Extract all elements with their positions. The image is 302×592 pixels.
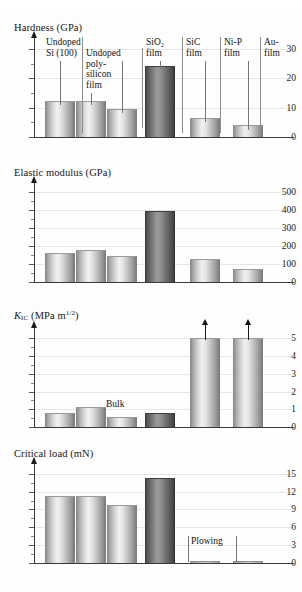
y-axis [34,327,35,427]
bar-sio2-film [107,417,137,427]
y-tick-minor [31,501,34,502]
y-tick-label: 300 [272,223,296,233]
y-tick-minor [31,255,34,256]
callout-sio2: SiO₂ film [146,37,164,58]
kic-exponent: 1/2 [66,309,75,317]
kic-unit-open: (MPa m [28,310,65,321]
bar-ni-p-film [190,561,220,563]
leader-line [205,61,206,122]
y-tick-minor [31,536,34,537]
label-divider [142,48,143,128]
y-tick [29,392,34,393]
y-tick-label: 3 [272,540,296,550]
chart-critical-load-plot: 03691215Plowing [8,461,296,573]
leader-line [60,61,61,105]
bar-undoped-si-100 [45,253,75,282]
y-tick [29,228,34,229]
y-tick [29,474,34,475]
y-tick-label: 0 [272,132,296,142]
y-tick-label: 12 [272,487,296,497]
bar-au-film [233,269,263,282]
bar-sio2-film [107,109,137,137]
bar-undoped-poly-silicon-film [76,250,106,282]
y-tick-minor [31,201,34,202]
y-tick [29,545,34,546]
y-tick [29,108,34,109]
y-tick-minor [31,237,34,238]
chart-fracture-toughness-title: KIC (MPa m1/2) [14,307,296,324]
y-tick [29,210,34,211]
y-tick-label: 500 [272,187,296,197]
bar-sio2-film [107,505,137,563]
y-tick [29,374,34,375]
y-axis [34,182,35,282]
chart-elastic-modulus-title: Elastic modulus (GPa) [14,167,296,179]
y-tick-label: 2 [272,387,296,397]
callout-sic: SiC film [186,37,202,58]
y-tick-minor [31,122,34,123]
y-tick [29,137,34,138]
label-divider [82,37,83,133]
y-tick-minor [31,518,34,519]
y-tick-label: 5 [272,333,296,343]
bar-undoped-poly-silicon-film [76,101,106,137]
annotation-plowing: Plowing [191,536,223,546]
bar-au-film [233,338,263,427]
y-tick-label: 6 [272,522,296,532]
y-tick-label: 100 [272,259,296,269]
bar-sio2-film [107,256,137,282]
y-tick [29,282,34,283]
bar-sic-film [145,478,175,563]
y-tick-label: 400 [272,205,296,215]
label-divider [220,37,221,133]
y-tick [29,427,34,428]
y-tick-minor [31,64,34,65]
gridline [35,474,294,475]
chart-hardness-plot: 0102030Undoped Si (100)Undoped poly- sil… [8,35,296,147]
callout-poly-silicon: Undoped poly- silicon film [86,48,121,90]
callout-undoped-si: Undoped Si (100) [46,37,81,58]
y-tick [29,563,34,564]
annotation-bulk: Bulk [106,399,124,409]
bar-sic-film [145,211,175,282]
y-tick [29,492,34,493]
y-axis [34,37,35,137]
chart-fracture-toughness: KIC (MPa m1/2) 012345Bulk [8,307,296,437]
y-tick-label: 0 [272,277,296,287]
y-tick-label: 0 [272,558,296,568]
y-tick-label: 1 [272,404,296,414]
y-tick-label: 200 [272,241,296,251]
x-axis [34,563,294,564]
label-divider [182,37,183,133]
chart-critical-load: Critical load (mN) 03691215Plowing [8,448,296,573]
leader-line [248,61,249,130]
bar-ni-p-film [190,338,220,427]
bar-au-film [233,561,263,563]
y-tick [29,264,34,265]
bar-sic-film [145,413,175,427]
y-tick-minor [31,365,34,366]
x-axis [34,282,294,283]
bar-undoped-si-100 [45,101,75,137]
y-axis [34,463,35,563]
y-tick-minor [31,347,34,348]
y-tick-label: 10 [272,103,296,113]
y-tick-label: 3 [272,369,296,379]
off-scale-arrow [205,324,206,340]
leader-line [122,61,123,113]
y-tick-minor [31,219,34,220]
y-tick [29,246,34,247]
x-axis [34,137,294,138]
y-tick-minor [31,554,34,555]
y-tick-label: 20 [272,73,296,83]
chart-hardness: Hardness (GPa) 0102030Undoped Si (100)Un… [8,22,296,147]
callout-au: Au- film [264,37,280,58]
bar-undoped-poly-silicon-film [76,407,106,427]
chart-elastic-modulus: Elastic modulus (GPa) 0100200300400500 [8,167,296,292]
y-tick-label: 15 [272,469,296,479]
chart-elastic-modulus-plot: 0100200300400500 [8,180,296,292]
y-tick-minor [31,418,34,419]
figure-page: Hardness (GPa) 0102030Undoped Si (100)Un… [0,0,302,592]
y-tick [29,338,34,339]
y-tick [29,409,34,410]
